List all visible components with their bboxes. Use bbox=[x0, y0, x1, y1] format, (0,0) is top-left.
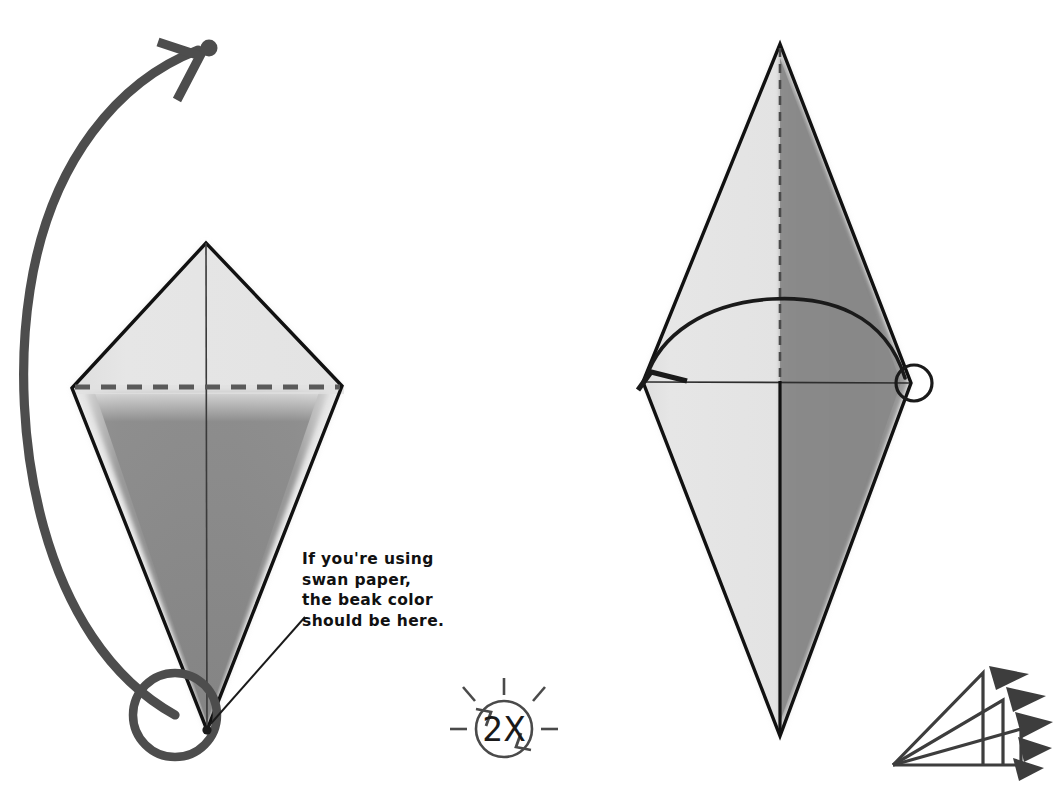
origami-diagram: 2X bbox=[0, 0, 1062, 791]
right-figure-kite-base-folded bbox=[638, 44, 932, 736]
diagram-page: 2X If you're using swan paper, the beak … bbox=[0, 0, 1062, 791]
repeat-twice-symbol: 2X bbox=[450, 678, 558, 757]
repeat-fold-layers-icon bbox=[893, 666, 1053, 781]
repeat-symbol-ray-ne bbox=[533, 687, 545, 701]
repeat-symbol-ray-nw bbox=[463, 687, 475, 701]
left-figure-kite-base bbox=[72, 243, 344, 757]
fanfold-arrowhead-1 bbox=[989, 666, 1029, 690]
repeat-symbol-label: 2X bbox=[482, 710, 526, 749]
left-center-crease-line bbox=[206, 243, 207, 730]
fanfold-arrowhead-2 bbox=[1006, 687, 1046, 712]
beak-color-annotation: If you're using swan paper, the beak col… bbox=[302, 549, 502, 631]
fanfold-arrowhead-5 bbox=[1013, 758, 1044, 781]
right-paper-left-light bbox=[643, 44, 780, 736]
right-paper-right-dark-core bbox=[780, 58, 901, 722]
fanfold-arrowhead-4 bbox=[1018, 737, 1052, 762]
rotation-arrow-tip-dot bbox=[201, 40, 218, 57]
